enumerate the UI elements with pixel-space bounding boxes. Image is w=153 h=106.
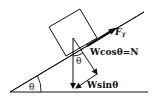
normal-component-label: Wcosθ=N (89, 47, 138, 57)
incline-angle-label: θ (29, 82, 34, 92)
parallel-component-label: Wsinθ (86, 80, 118, 90)
diagram-canvas: FT Wcosθ=N Wsinθ θ θ (0, 0, 153, 106)
incline-angle-arc (38, 76, 42, 92)
tension-label: FT (114, 27, 126, 38)
inclined-plane-diagram: FT Wcosθ=N Wsinθ θ θ (0, 0, 153, 106)
weight-angle-label: θ (76, 56, 81, 66)
